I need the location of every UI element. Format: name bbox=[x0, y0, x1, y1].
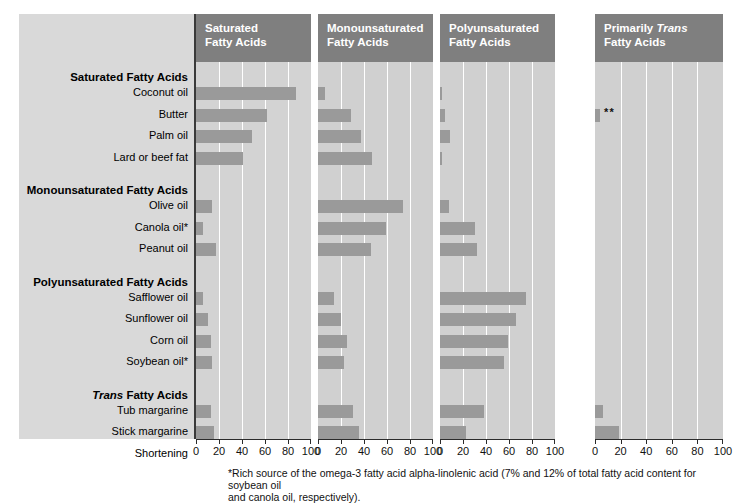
bar bbox=[318, 152, 372, 165]
bar bbox=[196, 87, 296, 100]
axis-tick bbox=[265, 439, 266, 444]
bar bbox=[196, 292, 203, 305]
axis-tick bbox=[387, 439, 388, 444]
axis-tick bbox=[722, 439, 723, 444]
row-label: Safflower oil bbox=[128, 291, 188, 303]
axis-tick-label: 80 bbox=[282, 445, 294, 457]
axis-tick-label: 80 bbox=[691, 445, 703, 457]
panel-title-monounsaturated: MonounsaturatedFatty Acids bbox=[318, 14, 433, 62]
gridline bbox=[509, 62, 510, 439]
bar bbox=[196, 152, 243, 165]
axis-tick bbox=[509, 439, 510, 444]
bar bbox=[595, 426, 619, 439]
row-label: Butter bbox=[159, 108, 188, 120]
row-label: Coconut oil bbox=[133, 86, 188, 98]
axis-tick-label: 100 bbox=[546, 445, 564, 457]
gridline bbox=[621, 62, 622, 439]
row-label: Tub margarine bbox=[117, 404, 188, 416]
bar bbox=[440, 426, 466, 439]
axis-tick-label: 0 bbox=[315, 445, 321, 457]
axis-tick-label: 80 bbox=[526, 445, 538, 457]
row-label: Canola oil* bbox=[135, 221, 188, 233]
bar bbox=[440, 130, 450, 143]
axis-tick-label: 0 bbox=[592, 445, 598, 457]
bar bbox=[440, 152, 442, 165]
bar bbox=[196, 356, 212, 369]
axis-tick bbox=[672, 439, 673, 444]
bar bbox=[440, 335, 508, 348]
axis-tick bbox=[486, 439, 487, 444]
row-label: Peanut oil bbox=[139, 242, 188, 254]
gridline bbox=[486, 62, 487, 439]
row-label: Sunflower oil bbox=[125, 312, 188, 324]
bar bbox=[440, 356, 504, 369]
axis-line bbox=[440, 439, 555, 440]
group-heading: Trans Fatty Acids bbox=[92, 389, 188, 401]
x-axis-polyunsaturated: 020406080100 bbox=[440, 439, 555, 465]
row-label: Corn oil bbox=[150, 334, 188, 346]
axis-tick-label: 60 bbox=[259, 445, 271, 457]
bar bbox=[440, 313, 516, 326]
panel-primarily-trans: Primarily TransFatty Acids**020406080100 bbox=[595, 14, 723, 465]
bar bbox=[318, 426, 359, 439]
gridline bbox=[410, 62, 411, 439]
bar bbox=[440, 109, 445, 122]
footnote-line-1: *Rich source of the omega-3 fatty acid a… bbox=[228, 467, 738, 491]
axis-line bbox=[318, 439, 433, 440]
panel-saturated: SaturatedFatty Acids020406080100 bbox=[196, 14, 311, 465]
bar bbox=[318, 405, 353, 418]
bar bbox=[440, 200, 449, 213]
axis-tick bbox=[595, 439, 596, 444]
bar bbox=[318, 222, 386, 235]
bar bbox=[196, 243, 216, 256]
bar bbox=[440, 222, 475, 235]
footnote-marker: ** bbox=[604, 107, 615, 117]
bar bbox=[440, 405, 484, 418]
axis-tick bbox=[288, 439, 289, 444]
axis-tick bbox=[532, 439, 533, 444]
bar bbox=[196, 109, 267, 122]
panel-title-saturated: SaturatedFatty Acids bbox=[196, 14, 311, 62]
panel-title-primarily-trans: Primarily TransFatty Acids bbox=[595, 14, 723, 62]
row-label: Stick margarine bbox=[112, 425, 188, 437]
axis-tick-label: 40 bbox=[640, 445, 652, 457]
axis-tick bbox=[646, 439, 647, 444]
bar bbox=[440, 292, 526, 305]
gridline bbox=[532, 62, 533, 439]
plot-area-polyunsaturated bbox=[440, 62, 555, 439]
axis-tick bbox=[219, 439, 220, 444]
axis-tick-label: 20 bbox=[457, 445, 469, 457]
bar bbox=[595, 109, 600, 122]
gridline bbox=[697, 62, 698, 439]
group-heading: Monounsaturated Fatty Acids bbox=[27, 184, 188, 196]
bar bbox=[318, 130, 361, 143]
bar bbox=[196, 313, 208, 326]
axis-tick-label: 60 bbox=[503, 445, 515, 457]
bar bbox=[318, 335, 347, 348]
axis-tick-label: 0 bbox=[193, 445, 199, 457]
x-axis-saturated: 020406080100 bbox=[196, 439, 311, 465]
bar bbox=[196, 405, 211, 418]
plot-area-monounsaturated bbox=[318, 62, 433, 439]
panel-monounsaturated: MonounsaturatedFatty Acids020406080100 bbox=[318, 14, 433, 465]
bar bbox=[196, 335, 211, 348]
axis-tick bbox=[621, 439, 622, 444]
axis-tick bbox=[318, 439, 319, 444]
bar bbox=[318, 109, 351, 122]
axis-tick-label: 40 bbox=[358, 445, 370, 457]
plot-area-saturated bbox=[196, 62, 311, 439]
axis-tick-label: 40 bbox=[236, 445, 248, 457]
gridline bbox=[672, 62, 673, 439]
axis-tick-label: 20 bbox=[614, 445, 626, 457]
panel-polyunsaturated: PolyunsaturatedFatty Acids020406080100 bbox=[440, 14, 555, 465]
row-label: Soybean oil* bbox=[126, 355, 188, 367]
axis-tick bbox=[554, 439, 555, 444]
panel-title-polyunsaturated: PolyunsaturatedFatty Acids bbox=[440, 14, 555, 62]
axis-tick bbox=[432, 439, 433, 444]
group-heading: Polyunsaturated Fatty Acids bbox=[33, 276, 188, 288]
bar bbox=[196, 200, 212, 213]
axis-tick bbox=[410, 439, 411, 444]
axis-tick-label: 20 bbox=[213, 445, 225, 457]
axis-tick-label: 60 bbox=[381, 445, 393, 457]
gridline bbox=[288, 62, 289, 439]
